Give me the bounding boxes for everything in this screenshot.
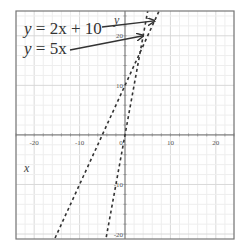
y-tick-label: 10 — [116, 82, 124, 90]
x-tick-label: 20 — [212, 139, 220, 147]
y-tick-label: 20 — [116, 32, 124, 40]
x-axis-label: x — [23, 161, 30, 175]
x-tick-label: -20 — [29, 139, 39, 147]
x-tick-label: -10 — [75, 139, 85, 147]
x-tick-label: 10 — [167, 139, 175, 147]
equation-label-1: y = 2x + 10 — [22, 19, 102, 38]
y-tick-label: -20 — [114, 231, 124, 239]
equation-label-2: y = 5x — [22, 39, 67, 58]
line-chart: -20-1001020-20-101020xyy = 2x + 10y = 5x — [0, 0, 248, 252]
